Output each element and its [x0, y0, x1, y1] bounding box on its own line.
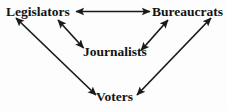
node-label-legislators: Legislators	[6, 5, 70, 19]
node-label-voters: Voters	[96, 90, 133, 104]
edge-bureaucrats-voters	[137, 18, 211, 95]
diagram-canvas: Legislators Bureaucrats Journalists Vote…	[0, 0, 227, 111]
node-label-bureaucrats: Bureaucrats	[152, 5, 223, 19]
node-label-journalists: Journalists	[83, 45, 147, 59]
edge-legislators-journalists	[58, 20, 84, 48]
